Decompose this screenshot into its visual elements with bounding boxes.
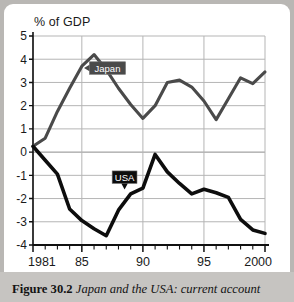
- plot-frame: [33, 32, 269, 245]
- y-tick-label: -3: [16, 215, 27, 229]
- y-tick-label: -1: [16, 169, 27, 183]
- y-tick-label: 3: [20, 76, 27, 90]
- caption-figure-number: Figure 30.2: [12, 282, 73, 296]
- callout-label: USA: [115, 172, 135, 183]
- x-tick-label: 85: [75, 255, 89, 269]
- x-tick-label: 95: [197, 255, 211, 269]
- y-tick-label: 0: [20, 145, 27, 159]
- x-tick-label: 2000: [244, 255, 272, 269]
- figure-container: % of GDP 543210-1-2-3-4 19818590952000 J…: [0, 0, 294, 302]
- x-axis-ticks: 19818590952000: [28, 245, 272, 269]
- y-tick-label: 2: [20, 99, 27, 113]
- gridlines: [33, 36, 265, 245]
- series-callouts: JapanUSA: [84, 62, 137, 190]
- x-tick-label: 1981: [28, 255, 56, 269]
- figure-caption: Figure 30.2 Japan and the USA: current a…: [12, 282, 292, 297]
- y-tick-label: 5: [20, 29, 27, 43]
- y-tick-label: -2: [16, 192, 27, 206]
- chart-panel: % of GDP 543210-1-2-3-4 19818590952000 J…: [4, 4, 290, 272]
- x-tick-label: 90: [136, 255, 150, 269]
- y-tick-label: -4: [16, 238, 27, 252]
- series-line-usa: [33, 146, 265, 235]
- callout-usa: USA: [112, 171, 137, 190]
- y-axis-ticks: 543210-1-2-3-4: [16, 29, 33, 252]
- current-account-line-chart: 543210-1-2-3-4 19818590952000 JapanUSA: [4, 4, 290, 272]
- callout-japan: Japan: [84, 62, 126, 74]
- series-line-japan: [33, 55, 265, 147]
- callout-label: Japan: [95, 63, 121, 74]
- y-tick-label: 4: [20, 53, 27, 67]
- data-series: [33, 55, 265, 236]
- y-tick-label: 1: [20, 122, 27, 136]
- caption-figure-title: Japan and the USA: current account: [76, 282, 261, 296]
